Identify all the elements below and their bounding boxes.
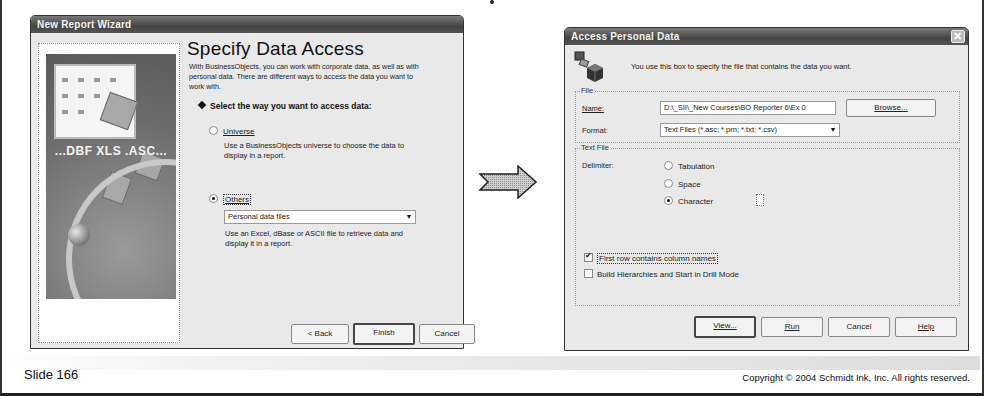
radio-others[interactable]: Others <box>209 194 251 204</box>
radio-space-label: Space <box>678 180 701 189</box>
checkbox-first-row-column-names[interactable]: First row contains column names <box>584 253 718 263</box>
wizard-illustration-frame: ...DBF XLS .ASC... <box>38 43 180 343</box>
file-group-title: File <box>580 86 594 95</box>
help-button[interactable]: Help <box>895 317 957 337</box>
close-icon[interactable]: ✕ <box>951 30 965 43</box>
checkbox-build-hierarchies-icon[interactable] <box>584 269 593 278</box>
select-access-heading-text: Select the way you want to access data: <box>210 101 372 111</box>
copyright-text: Copyright © 2004 Schmidt Ink, Inc. All r… <box>742 372 970 383</box>
right-arrow-icon <box>478 165 538 199</box>
cancel-button[interactable]: Cancel <box>419 324 475 344</box>
radio-universe-icon[interactable] <box>209 126 218 135</box>
view-button[interactable]: View... <box>694 316 756 338</box>
wizard-titlebar[interactable]: New Report Wizard <box>31 16 463 33</box>
radio-others-icon[interactable] <box>209 194 218 203</box>
footer-band <box>4 356 980 370</box>
delimiter-character-input[interactable] <box>756 194 764 206</box>
chevron-down-icon[interactable]: ▼ <box>828 125 838 135</box>
slide-top-mark <box>490 0 494 4</box>
checkbox-first-row-label: First row contains column names <box>597 253 718 264</box>
radio-universe-label: Universe <box>223 127 255 136</box>
illustration-ball <box>68 224 90 246</box>
checkbox-first-row-icon[interactable] <box>584 253 593 262</box>
slide-number: Slide 166 <box>24 367 78 382</box>
browse-button[interactable]: Browse... <box>846 99 936 117</box>
radio-space[interactable]: Space <box>664 179 701 189</box>
wizard-title: New Report Wizard <box>37 19 131 30</box>
access-personal-data-dialog: Access Personal Data ✕ You use this box … <box>564 27 969 351</box>
wizard-illustration: ...DBF XLS .ASC... <box>46 54 176 299</box>
new-report-wizard-dialog: New Report Wizard ...DBF XLS .ASC... Spe… <box>30 15 464 349</box>
apd-title: Access Personal Data <box>571 31 680 42</box>
text-file-group-title: Text File <box>580 143 610 152</box>
chevron-down-icon[interactable]: ▼ <box>404 212 414 222</box>
cancel-button[interactable]: Cancel <box>828 317 890 337</box>
others-description: Use an Excel, dBase or ASCII file to ret… <box>225 229 425 249</box>
diamond-bullet-icon <box>198 101 206 109</box>
file-format-select[interactable]: Text Files (*.asc; *.prn; *.txt; *.csv) … <box>660 123 840 137</box>
radio-character[interactable]: Character <box>664 196 713 206</box>
apd-intro-text: You use this box to specify the file tha… <box>631 62 852 71</box>
name-label: Name: <box>582 104 604 113</box>
radio-universe[interactable]: Universe <box>209 126 255 136</box>
file-groupbox: File Name: D:\_SII\_New Courses\BO Repor… <box>575 91 960 143</box>
radio-others-label: Others <box>223 194 251 205</box>
wizard-heading: Specify Data Access <box>187 38 364 60</box>
radio-character-icon[interactable] <box>664 196 673 205</box>
radio-tabulation-icon[interactable] <box>664 161 673 170</box>
radio-tabulation-label: Tabulation <box>678 162 714 171</box>
delimiter-label: Delimiter: <box>582 161 614 170</box>
run-button[interactable]: Run <box>761 317 823 337</box>
data-cube-icon <box>573 50 603 84</box>
personal-data-type-select[interactable]: Personal data files ▼ <box>224 210 416 224</box>
text-file-groupbox: Text File Delimiter: Tabulation Space Ch… <box>575 148 960 306</box>
file-format-value: Text Files (*.asc; *.prn; *.txt; *.csv) <box>664 125 777 134</box>
radio-tabulation[interactable]: Tabulation <box>664 161 714 171</box>
file-extensions-label: ...DBF XLS .ASC... <box>46 144 176 158</box>
radio-character-label: Character <box>678 197 713 206</box>
format-label: Format: <box>582 126 608 135</box>
back-button[interactable]: < Back <box>291 324 349 344</box>
personal-data-type-value: Personal data files <box>228 212 290 221</box>
radio-space-icon[interactable] <box>664 179 673 188</box>
select-access-heading: Select the way you want to access data: <box>199 101 372 111</box>
universe-description: Use a BusinessObjects universe to choose… <box>224 141 424 161</box>
file-name-input[interactable]: D:\_SII\_New Courses\BO Reporter 6\Ex 0 <box>660 101 836 115</box>
slide-frame: New Report Wizard ...DBF XLS .ASC... Spe… <box>0 0 984 396</box>
wizard-intro-text: With BusinessObjects, you can work with … <box>189 62 425 92</box>
finish-button[interactable]: Finish <box>353 323 415 345</box>
checkbox-build-hierarchies[interactable]: Build Hierarchies and Start in Drill Mod… <box>584 269 739 279</box>
apd-titlebar[interactable]: Access Personal Data ✕ <box>565 28 968 45</box>
checkbox-build-hierarchies-label: Build Hierarchies and Start in Drill Mod… <box>597 270 739 279</box>
